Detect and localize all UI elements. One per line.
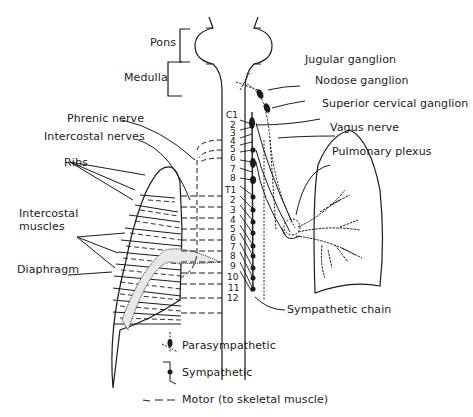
segment-label: 8: [230, 174, 236, 183]
label-pulmonary-plexus: Pulmonary plexus: [332, 146, 432, 158]
legend-sympathetic-label: Sympathetic: [182, 367, 253, 379]
segment-label: C1: [226, 111, 238, 120]
diaphragm: [122, 249, 220, 330]
label-pons: Pons: [150, 37, 176, 49]
segment-label: 3: [230, 206, 236, 215]
label-vagus-nerve: Vagus nerve: [330, 122, 399, 134]
legend-motor-label: Motor (to skeletal muscle): [182, 394, 328, 406]
label-jugular-ganglion: Jugular ganglion: [305, 54, 396, 66]
label-phrenic-nerve: Phrenic nerve: [67, 113, 144, 125]
sympathetic-fibers-to-lung: [256, 123, 292, 236]
segment-label: 8: [230, 252, 236, 261]
left-lung-ribcage: [112, 167, 220, 388]
legend-parasympathetic-symbol: [162, 332, 178, 352]
legend-parasympathetic-label: Parasympathetic: [182, 340, 276, 352]
label-superior-cervical-ganglion: Superior cervical ganglion: [322, 98, 468, 110]
legend-sympathetic-symbol: [163, 362, 176, 384]
label-ribs: Ribs: [64, 157, 88, 169]
vagal-ganglia: [255, 88, 271, 114]
label-medulla: Medulla: [124, 72, 168, 84]
label-intercostal-nerves: Intercostal nerves: [44, 131, 145, 143]
segment-label: 9: [230, 262, 236, 271]
medulla-bracket: [168, 62, 182, 96]
segment-label: T1: [225, 186, 236, 195]
segment-label: 6: [230, 154, 236, 163]
pons-bracket: [180, 29, 190, 62]
bronchial-tree: [296, 190, 362, 278]
segment-label: 2: [230, 196, 236, 205]
legend-motor-symbol: [143, 400, 175, 401]
label-nodose-ganglion: Nodose ganglion: [315, 75, 409, 87]
label-intercostal-muscles-line1: Intercostal: [19, 208, 78, 220]
label-diaphragm: Diaphragm: [17, 264, 79, 276]
label-intercostal-muscles-line2: muscles: [19, 221, 65, 233]
segment-label: 12: [227, 294, 238, 303]
sympathetic-chain: [240, 112, 256, 292]
segment-label: 11: [228, 284, 239, 293]
label-sympathetic-chain: Sympathetic chain: [287, 304, 391, 316]
segment-label: 10: [227, 273, 238, 282]
